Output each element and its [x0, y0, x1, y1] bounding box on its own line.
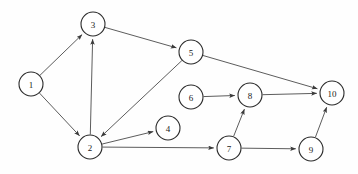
edge-2-to-4	[102, 132, 153, 144]
node-label-3: 3	[91, 20, 96, 30]
node-label-5: 5	[189, 48, 194, 58]
edge-1-to-2	[40, 93, 80, 136]
node-label-1: 1	[29, 80, 34, 90]
node-label-4: 4	[166, 124, 171, 134]
edge-7-to-9	[242, 148, 296, 149]
node-label-6: 6	[189, 93, 194, 103]
edge-8-to-10	[263, 93, 317, 94]
edge-2-to-7	[103, 147, 214, 148]
edge-7-to-8	[234, 109, 245, 136]
node-10[interactable]: 10	[320, 81, 344, 105]
node-1[interactable]: 1	[19, 72, 43, 96]
edge-5-to-10	[203, 55, 317, 88]
graph-canvas: 12345678910	[0, 0, 358, 174]
node-6[interactable]: 6	[179, 85, 203, 109]
nodes-layer: 12345678910	[19, 12, 344, 161]
node-3[interactable]: 3	[81, 12, 105, 36]
edge-3-to-5	[105, 27, 176, 47]
node-label-8: 8	[248, 91, 253, 101]
edge-6-to-8	[203, 96, 234, 97]
edge-9-to-10	[315, 107, 326, 137]
node-label-2: 2	[88, 143, 93, 153]
edge-2-to-3	[90, 39, 92, 134]
edge-1-to-3	[40, 35, 82, 76]
node-7[interactable]: 7	[217, 136, 241, 160]
node-8[interactable]: 8	[238, 83, 262, 107]
graph-svg: 12345678910	[0, 0, 358, 174]
node-4[interactable]: 4	[156, 116, 180, 140]
node-label-10: 10	[328, 89, 338, 99]
node-9[interactable]: 9	[299, 137, 323, 161]
node-5[interactable]: 5	[179, 40, 203, 64]
node-label-7: 7	[227, 144, 232, 154]
node-2[interactable]: 2	[78, 135, 102, 159]
node-label-9: 9	[309, 145, 314, 155]
